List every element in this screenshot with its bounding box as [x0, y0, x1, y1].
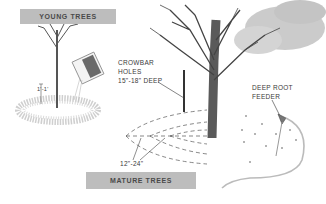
- spacing-leader-lines: [133, 138, 165, 160]
- deep-root-feeder: [222, 100, 304, 188]
- fertilizer-box: [72, 52, 104, 102]
- crowbar-hole-pattern: [126, 110, 207, 164]
- crowbar-label-line2: HOLES: [118, 68, 142, 76]
- mature-tree-foliage: [234, 0, 326, 54]
- young-tree-dimension-label: 1'-1': [37, 85, 49, 93]
- feeder-hole-dots: [241, 115, 297, 163]
- young-trees-banner: YOUNG TREES: [20, 9, 116, 24]
- feeder-label-line2: FEEDER: [252, 93, 280, 101]
- tree-fertilizing-diagram: YOUNG TREES 1'-1' CROWBAR HOLES 15"-18" …: [0, 0, 326, 204]
- crowbar-label-line3: 15"-18" DEEP: [118, 77, 162, 85]
- mature-trees-banner: MATURE TREES: [86, 172, 196, 189]
- feeder-label-line1: DEEP ROOT: [252, 84, 293, 92]
- young-tree: [38, 24, 78, 108]
- spacing-label: 12"-24": [120, 160, 143, 168]
- crowbar-label-line1: CROWBAR: [118, 59, 154, 67]
